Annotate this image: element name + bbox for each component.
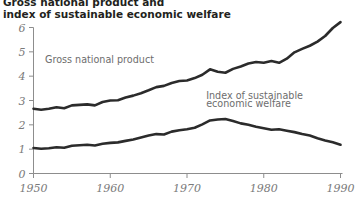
y-tick-label: 5 — [19, 46, 26, 59]
x-tick-label: 1990 — [327, 182, 355, 195]
y-axis: 0123456 — [18, 22, 34, 181]
series-line — [34, 119, 341, 149]
y-tick-label: 6 — [19, 22, 26, 35]
series-label: Gross national product — [45, 54, 154, 65]
x-tick-label: 1980 — [250, 182, 278, 195]
series-label: economic welfare — [206, 98, 291, 109]
series-lines — [34, 22, 341, 149]
x-axis: 19501960197019801990 — [20, 174, 355, 195]
chart-plot-area: 0123456 19501960197019801990 Gross natio… — [0, 0, 355, 213]
y-tick-label: 2 — [18, 119, 26, 132]
y-tick-label: 4 — [18, 70, 26, 83]
x-tick-label: 1970 — [173, 182, 201, 195]
x-tick-label: 1960 — [96, 182, 124, 195]
chart-figure: Gross national product and index of sust… — [0, 0, 355, 213]
y-tick-label: 1 — [19, 143, 26, 156]
y-tick-label: 0 — [19, 168, 26, 181]
y-tick-label: 3 — [19, 95, 26, 108]
x-tick-label: 1950 — [20, 182, 48, 195]
